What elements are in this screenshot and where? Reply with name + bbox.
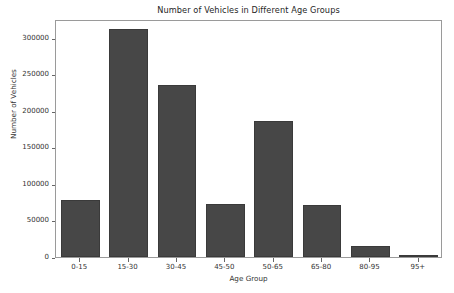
x-axis-tick-label: 50-65 xyxy=(249,263,297,271)
x-axis-tick-label: 30-45 xyxy=(152,263,200,271)
x-axis-tick: 0-15 xyxy=(55,258,103,274)
x-axis-tick: 45-50 xyxy=(200,258,248,274)
y-axis-tick-label: 300000 xyxy=(22,34,49,42)
x-axis-ticks: 0-1515-3030-4545-5050-6565-8080-9595+ xyxy=(55,258,442,274)
x-axis-tick: 95+ xyxy=(394,258,442,274)
x-axis-tick-mark xyxy=(418,258,419,262)
y-axis-tick-label: 150000 xyxy=(22,143,49,151)
y-axis-tick-label: 250000 xyxy=(22,70,49,78)
x-axis-tick: 30-45 xyxy=(152,258,200,274)
bar xyxy=(254,121,293,257)
y-axis-tick-label: 100000 xyxy=(22,180,49,188)
x-axis-tick-mark xyxy=(176,258,177,262)
x-axis-tick: 15-30 xyxy=(103,258,151,274)
bar xyxy=(351,246,390,257)
bar xyxy=(206,204,245,257)
y-axis-tick-label: 0 xyxy=(45,253,49,261)
x-axis-tick-label: 65-80 xyxy=(297,263,345,271)
x-axis-label: Age Group xyxy=(55,274,442,283)
chart-title: Number of Vehicles in Different Age Grou… xyxy=(55,5,442,15)
chart-figure: Number of Vehicles in Different Age Grou… xyxy=(0,0,454,293)
x-axis-tick-label: 15-30 xyxy=(103,263,151,271)
bar xyxy=(109,29,148,257)
x-axis-tick: 50-65 xyxy=(249,258,297,274)
x-axis-tick-label: 95+ xyxy=(394,263,442,271)
x-axis-tick-mark xyxy=(369,258,370,262)
y-axis-tick-label: 200000 xyxy=(22,107,49,115)
bar xyxy=(303,205,342,257)
x-axis-tick-label: 45-50 xyxy=(200,263,248,271)
bar xyxy=(399,255,438,257)
x-axis-tick-mark xyxy=(224,258,225,262)
x-axis-tick-label: 0-15 xyxy=(55,263,103,271)
y-axis-ticks: 050000100000150000200000250000300000 xyxy=(0,20,55,258)
bars-layer xyxy=(56,21,441,257)
bar xyxy=(158,85,197,257)
x-axis-tick-mark xyxy=(321,258,322,262)
x-axis-tick: 80-95 xyxy=(345,258,393,274)
plot-area xyxy=(55,20,442,258)
x-axis-tick: 65-80 xyxy=(297,258,345,274)
x-axis-tick-mark xyxy=(128,258,129,262)
bar xyxy=(61,200,100,257)
x-axis-tick-mark xyxy=(273,258,274,262)
y-axis-tick-label: 50000 xyxy=(27,216,49,224)
x-axis-tick-mark xyxy=(79,258,80,262)
x-axis-tick-label: 80-95 xyxy=(345,263,393,271)
